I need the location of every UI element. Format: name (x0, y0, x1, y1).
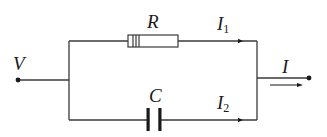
capacitor-icon (147, 108, 162, 131)
arrow-right-icon (270, 83, 303, 87)
arrow-i1-icon (238, 39, 243, 43)
resistor-label: R (147, 12, 159, 31)
current-i2-subscript: 2 (223, 101, 229, 115)
circuit-drawing (0, 0, 327, 137)
arrow-i2-icon (238, 118, 243, 122)
resistor-icon (128, 35, 178, 47)
voltage-label: V (13, 54, 25, 73)
circuit-diagram: V R C I1 I2 I (0, 0, 327, 137)
capacitor-label: C (149, 86, 162, 105)
current-i2-label: I2 (217, 93, 229, 114)
output-terminal-dot (307, 76, 312, 81)
input-terminal-dot (16, 78, 21, 83)
total-current-label: I (282, 57, 288, 76)
current-i1-subscript: 1 (223, 22, 229, 36)
current-i1-label: I1 (217, 14, 229, 35)
